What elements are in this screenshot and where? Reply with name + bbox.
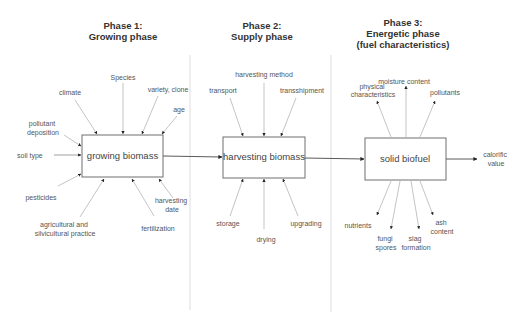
flow-arrow-growing-to-harvesting xyxy=(163,156,222,157)
phase-3-title: Phase 3: Energetic phase (fuel character… xyxy=(357,17,450,50)
factor-climate: climate xyxy=(59,89,81,96)
factor-transshipment: transshipment xyxy=(280,87,324,95)
svg-text:Growing phase: Growing phase xyxy=(89,31,158,42)
svg-text:(fuel characteristics): (fuel characteristics) xyxy=(357,39,450,50)
factor-pollutant-deposition: pollutant deposition xyxy=(27,120,59,137)
arrow-harvesting-date xyxy=(159,179,173,198)
arrow-ash-content xyxy=(420,181,433,215)
factor-species: Species xyxy=(111,74,136,82)
solid-biofuel-label: solid biofuel xyxy=(380,153,430,164)
output-moisture-content: moisture content xyxy=(378,78,430,85)
output-calorific-value: calorific value xyxy=(483,151,509,167)
arrow-storage xyxy=(230,179,243,216)
factor-upgrading: upgrading xyxy=(290,220,321,228)
growing-biomass-label: growing biomass xyxy=(87,150,159,161)
factor-harvesting-date: harvesting date xyxy=(155,197,189,213)
factor-harvesting-method: harvesting method xyxy=(235,71,293,79)
svg-text:Phase 3:: Phase 3: xyxy=(383,17,422,28)
svg-text:Supply phase: Supply phase xyxy=(231,31,293,42)
svg-text:Phase 1:: Phase 1: xyxy=(103,20,142,31)
arrow-physical-characteristics xyxy=(377,101,391,137)
factor-drying: drying xyxy=(256,236,275,244)
arrow-agricultural-practice xyxy=(80,179,104,217)
svg-text:Energetic phase: Energetic phase xyxy=(366,28,439,39)
factor-age: age xyxy=(173,106,185,114)
arrow-slag-formation xyxy=(411,181,419,229)
factor-storage: storage xyxy=(216,220,239,228)
phase-2-title: Phase 2: Supply phase xyxy=(231,20,293,42)
arrow-nutrients xyxy=(377,181,391,215)
output-pollutants: pollutants xyxy=(430,89,460,97)
arrow-pesticides xyxy=(58,174,81,186)
flow-arrow-harvesting-to-biofuel xyxy=(305,158,364,159)
factor-transport: transport xyxy=(209,87,237,95)
factor-soil-type: soil type xyxy=(17,152,43,160)
factor-agricultural-practice: agricultural and silvicultural practice xyxy=(35,221,96,238)
arrow-pollutant-deposition xyxy=(64,135,81,146)
output-ash-content: ash content xyxy=(431,219,454,235)
harvesting-biomass-label: harvesting biomass xyxy=(223,151,305,162)
factor-fertilization: fertilization xyxy=(141,225,175,232)
arrow-fertilization xyxy=(132,179,154,216)
arrow-fungi-spores xyxy=(391,181,400,229)
phase-1-title: Phase 1: Growing phase xyxy=(89,20,158,42)
arrow-age xyxy=(162,116,177,134)
factor-pesticides: pesticides xyxy=(25,194,57,202)
arrow-transport xyxy=(230,98,243,136)
arrow-pollutants xyxy=(420,101,435,137)
output-fungi-spores: fungi spores xyxy=(375,235,397,252)
factor-variety: variety, clone xyxy=(148,86,189,94)
biomass-phase-diagram: Phase 1: Growing phase Phase 2: Supply p… xyxy=(0,0,526,326)
arrow-climate xyxy=(75,100,97,134)
arrow-variety xyxy=(142,96,158,134)
output-nutrients: nutrients xyxy=(345,222,372,229)
svg-text:Phase 2:: Phase 2: xyxy=(242,20,281,31)
arrow-upgrading xyxy=(283,179,298,216)
output-slag-formation: slag formation xyxy=(401,235,430,251)
output-physical-characteristics: physical characteristics xyxy=(351,83,396,98)
arrow-transshipment xyxy=(281,98,296,136)
